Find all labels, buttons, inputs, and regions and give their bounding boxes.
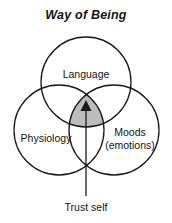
way-of-being-figure: Way of Being <box>0 0 172 223</box>
trust-self-caption: Trust self <box>65 201 108 213</box>
circle-label-moods-line1: Moods <box>114 126 146 138</box>
circle-label-physiology: Physiology <box>21 132 73 144</box>
circle-label-moods-line2: (emotions) <box>105 139 155 151</box>
circle-label-language: Language <box>63 68 110 80</box>
venn-diagram: Language Physiology Moods (emotions) Tru… <box>0 0 172 223</box>
circle-physiology <box>14 85 104 175</box>
